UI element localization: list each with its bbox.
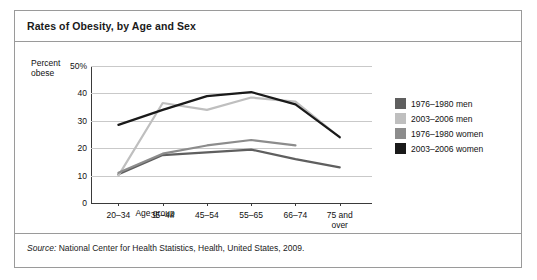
legend-swatch	[395, 113, 406, 124]
series-lines	[91, 66, 372, 204]
chart-area: Percent obese 01020304050% 20–3435–4445–…	[15, 42, 521, 232]
y-tick-label: 50%	[70, 61, 87, 71]
legend-item: 2003–2006 women	[395, 142, 515, 155]
x-tick-label: 75 andover	[327, 210, 353, 230]
x-tick-label: 20–34	[107, 210, 131, 220]
y-tick-label: 20	[78, 143, 87, 153]
source-label: Source:	[27, 243, 56, 253]
legend-swatch	[395, 98, 406, 109]
series-line	[118, 98, 339, 176]
page-title: Rates of Obesity, by Age and Sex	[27, 20, 196, 32]
legend-item: 1976–1980 men	[395, 97, 515, 110]
legend: 1976–1980 men2003–2006 men1976–1980 wome…	[395, 97, 515, 157]
legend-item: 2003–2006 men	[395, 112, 515, 125]
y-tick-label: 30	[78, 116, 87, 126]
plot-canvas: 01020304050% 20–3435–4445–5455–6566–7475…	[91, 66, 372, 203]
legend-item: 1976–1980 women	[395, 127, 515, 140]
x-axis-title: Age group	[135, 208, 174, 218]
series-line	[118, 140, 295, 173]
series-line	[118, 150, 339, 175]
legend-swatch	[395, 143, 406, 154]
x-tick-label: 45–54	[195, 210, 219, 220]
series-line	[118, 92, 339, 137]
figure-panel: Rates of Obesity, by Age and Sex Percent…	[14, 10, 522, 268]
y-tick-label: 10	[78, 171, 87, 181]
source-text: National Center for Health Statistics, H…	[56, 243, 304, 253]
source-note: Source: National Center for Health Stati…	[27, 243, 304, 253]
y-tick-label: 0	[82, 198, 87, 208]
legend-label: 1976–1980 men	[411, 99, 472, 109]
legend-label: 2003–2006 women	[411, 144, 483, 154]
legend-label: 2003–2006 men	[411, 114, 472, 124]
y-tick-label: 40	[78, 88, 87, 98]
legend-label: 1976–1980 women	[411, 129, 483, 139]
legend-swatch	[395, 128, 406, 139]
footer-divider	[15, 233, 521, 234]
x-tick-label: 55–65	[239, 210, 263, 220]
x-tick-label: 66–74	[284, 210, 308, 220]
